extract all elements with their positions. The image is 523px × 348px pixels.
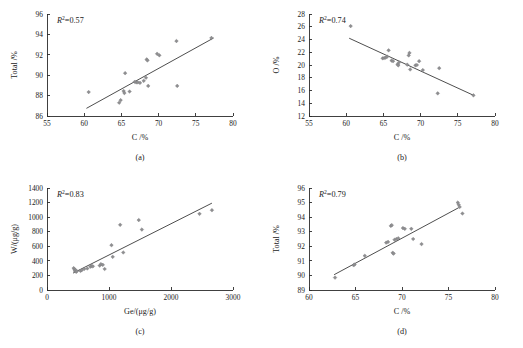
x-tick-label: 65 [352, 293, 360, 302]
panel-b: 121416182022242628556065707580R2=0.74C /… [262, 0, 523, 174]
data-point [411, 237, 415, 241]
y-tick-label: 89 [298, 286, 306, 295]
data-points [349, 24, 475, 97]
data-point [405, 63, 409, 67]
x-axis-title: C /% [394, 133, 411, 142]
y-tick-label: 16 [298, 86, 306, 95]
x-tick-label: 70 [417, 119, 425, 128]
x-tick-label: 1000 [102, 293, 117, 302]
x-axis-title: C /% [132, 133, 149, 142]
data-point [461, 212, 465, 216]
panel-b-plot: 121416182022242628556065707580R2=0.74C /… [262, 0, 523, 174]
x-tick-label: 80 [491, 119, 499, 128]
data-points [87, 36, 213, 104]
y-tick-label: 18 [298, 73, 306, 82]
y-axis-title: Total /% [10, 51, 19, 79]
data-point [437, 66, 441, 70]
data-point [128, 90, 132, 94]
y-tick-label: 96 [298, 184, 306, 193]
data-point [140, 228, 144, 232]
x-tick-label: 3000 [226, 293, 241, 302]
y-tick-label: 400 [32, 257, 43, 266]
x-tick-label: 65 [118, 119, 126, 128]
y-tick-label: 86 [36, 112, 44, 121]
x-tick-label: 55 [43, 119, 51, 128]
y-tick-label: 1400 [28, 184, 43, 193]
data-point [175, 84, 179, 88]
x-tick-label: 70 [155, 119, 163, 128]
data-point [198, 212, 202, 216]
data-point [420, 242, 424, 246]
data-point [175, 39, 179, 43]
y-tick-label: 88 [36, 91, 44, 100]
trend-line [73, 203, 212, 273]
data-point [137, 218, 141, 222]
y-axis-title: O /% [272, 56, 281, 73]
data-point [408, 68, 412, 72]
data-point [87, 90, 91, 94]
figure-scatter-panels: 868890929496556065707580R2=0.57C /%Total… [0, 0, 523, 348]
panel-caption: (c) [135, 327, 144, 336]
data-point [210, 36, 214, 40]
x-tick-label: 80 [229, 119, 237, 128]
y-tick-label: 800 [32, 227, 43, 236]
y-tick-label: 22 [298, 48, 306, 57]
y-axis-title: W/(μg/g) [10, 224, 19, 254]
y-tick-label: 14 [298, 99, 306, 108]
data-point [146, 84, 150, 88]
data-point [349, 24, 353, 28]
x-tick-label: 80 [491, 293, 499, 302]
y-tick-label: 90 [36, 71, 44, 80]
data-point [85, 267, 89, 271]
panel-d-plot: 89909192939495966065707580R2=0.79C /%Tot… [262, 174, 523, 348]
y-tick-label: 96 [36, 10, 44, 19]
y-tick-label: 20 [298, 61, 306, 70]
y-tick-label: 93 [298, 227, 306, 236]
y-tick-label: 95 [298, 198, 306, 207]
r-squared-annotation: R2=0.83 [56, 189, 84, 199]
y-tick-label: 26 [298, 22, 306, 31]
y-tick-label: 200 [32, 271, 43, 280]
x-tick-label: 75 [192, 119, 200, 128]
data-point [210, 208, 214, 212]
x-tick-label: 60 [305, 293, 313, 302]
x-tick-label: 60 [81, 119, 89, 128]
y-axis-title: Total /% [272, 225, 281, 253]
axis-lines [309, 188, 495, 290]
y-tick-label: 94 [298, 213, 306, 222]
y-tick-label: 90 [298, 271, 306, 280]
panel-caption: (a) [135, 153, 144, 162]
y-tick-label: 92 [36, 51, 44, 60]
data-points [72, 208, 214, 273]
panel-c: 02004006008001000120014000100020003000R2… [0, 174, 261, 348]
x-tick-label: 75 [454, 119, 462, 128]
x-tick-label: 2000 [164, 293, 179, 302]
x-tick-label: 75 [445, 293, 453, 302]
x-tick-label: 0 [45, 293, 49, 302]
y-tick-label: 92 [298, 242, 306, 251]
panel-a: 868890929496556065707580R2=0.57C /%Total… [0, 0, 261, 174]
x-tick-label: 70 [398, 293, 406, 302]
y-tick-label: 94 [36, 30, 44, 39]
trend-line [86, 38, 213, 108]
data-point [409, 227, 413, 231]
data-point [333, 276, 337, 280]
data-point [110, 243, 114, 247]
x-axis-title: C /% [394, 307, 411, 316]
data-point [111, 255, 115, 259]
data-point [472, 93, 476, 97]
data-point [123, 71, 127, 75]
r-squared-annotation: R2=0.79 [318, 189, 346, 199]
r-squared-annotation: R2=0.57 [56, 15, 84, 25]
axis-lines [47, 14, 233, 116]
data-point [121, 251, 125, 255]
panel-d: 89909192939495966065707580R2=0.79C /%Tot… [262, 174, 523, 348]
trend-line [349, 38, 474, 95]
data-point [436, 92, 440, 96]
data-point [118, 223, 122, 227]
y-tick-label: 12 [298, 112, 306, 121]
data-point [142, 79, 146, 83]
panel-caption: (b) [397, 153, 407, 162]
panel-c-plot: 02004006008001000120014000100020003000R2… [0, 174, 261, 348]
y-tick-label: 0 [39, 286, 43, 295]
